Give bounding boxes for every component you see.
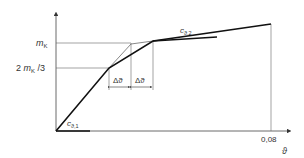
label-c2: cϑ,2 — [180, 26, 192, 36]
label-two-thirds-mk: 2 mK /3 — [16, 63, 45, 74]
label-delta-1: Δϑ — [113, 76, 123, 85]
x-axis-label: ϑ — [282, 146, 288, 156]
label-c1: cϑ,1 — [67, 119, 79, 129]
label-delta-2: Δϑ — [135, 76, 145, 85]
label-mk: mK — [36, 38, 48, 49]
stiffness-diagram: mK 2 mK /3 cϑ,1 cϑ,2 Δϑ Δϑ 0,08 ϑ — [0, 0, 304, 158]
x-tick-label: 0,08 — [261, 135, 277, 144]
